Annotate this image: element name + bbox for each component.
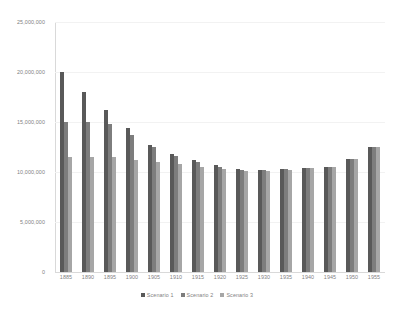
bar[interactable]	[156, 162, 160, 272]
bar-cluster	[297, 22, 319, 272]
x-axis-tick-label: 1900	[121, 274, 143, 280]
bar-cluster	[341, 22, 363, 272]
x-axis-tick-label: 1915	[187, 274, 209, 280]
bar-cluster	[231, 22, 253, 272]
x-axis-tick-label: 1920	[209, 274, 231, 280]
y-axis-tick-label: 10,000,000	[17, 169, 45, 175]
bar[interactable]	[178, 164, 182, 272]
legend-label: Scenario 3	[226, 292, 253, 298]
y-axis-tick-label: 5,000,000	[20, 219, 45, 225]
x-axis-tick-label: 1895	[99, 274, 121, 280]
bar-chart: 25,000,00020,000,00015,000,00010,000,000…	[0, 0, 394, 317]
bar-cluster	[319, 22, 341, 272]
bar[interactable]	[288, 170, 292, 272]
x-axis-tick-label: 1905	[143, 274, 165, 280]
bar-cluster	[77, 22, 99, 272]
bar-cluster	[275, 22, 297, 272]
plot-area	[55, 22, 385, 272]
x-axis-tick-label: 1910	[165, 274, 187, 280]
legend-item[interactable]: Scenario 1	[141, 292, 174, 298]
bar[interactable]	[310, 168, 314, 272]
bar-cluster	[121, 22, 143, 272]
y-axis-tick-label: 15,000,000	[17, 119, 45, 125]
x-axis-tick-label: 1945	[319, 274, 341, 280]
legend: Scenario 1Scenario 2Scenario 3	[0, 292, 394, 298]
y-axis: 25,000,00020,000,00015,000,00010,000,000…	[0, 22, 50, 272]
x-axis-tick-label: 1890	[77, 274, 99, 280]
legend-label: Scenario 1	[147, 292, 174, 298]
bar-cluster	[143, 22, 165, 272]
x-axis: 1885189018951900190519101915192019251930…	[55, 274, 385, 280]
bar-cluster	[253, 22, 275, 272]
bar[interactable]	[222, 169, 226, 272]
y-axis-tick-label: 20,000,000	[17, 69, 45, 75]
bar-cluster	[209, 22, 231, 272]
bar[interactable]	[376, 147, 380, 272]
x-axis-tick-label: 1955	[363, 274, 385, 280]
x-axis-tick-label: 1930	[253, 274, 275, 280]
bar[interactable]	[266, 171, 270, 272]
x-axis-tick-label: 1940	[297, 274, 319, 280]
legend-swatch-icon	[181, 293, 185, 297]
bar[interactable]	[332, 167, 336, 272]
bar[interactable]	[90, 157, 94, 272]
y-axis-tick-label: 0	[42, 269, 45, 275]
legend-item[interactable]: Scenario 3	[220, 292, 253, 298]
bar-cluster	[165, 22, 187, 272]
bar[interactable]	[134, 160, 138, 272]
bar[interactable]	[112, 157, 116, 272]
bar[interactable]	[244, 171, 248, 272]
legend-swatch-icon	[141, 293, 145, 297]
legend-item[interactable]: Scenario 2	[181, 292, 214, 298]
x-axis-tick-label: 1935	[275, 274, 297, 280]
bar-cluster	[187, 22, 209, 272]
bar[interactable]	[200, 167, 204, 272]
y-axis-tick-label: 25,000,000	[17, 19, 45, 25]
x-axis-tick-label: 1950	[341, 274, 363, 280]
bar-cluster	[363, 22, 385, 272]
x-axis-tick-label: 1925	[231, 274, 253, 280]
bar-cluster	[99, 22, 121, 272]
legend-label: Scenario 2	[187, 292, 214, 298]
bar[interactable]	[354, 159, 358, 272]
bar-cluster	[55, 22, 77, 272]
bars-layer	[55, 22, 385, 272]
bar[interactable]	[68, 157, 72, 272]
legend-swatch-icon	[220, 293, 224, 297]
axis-baseline	[55, 272, 385, 273]
x-axis-tick-label: 1885	[55, 274, 77, 280]
